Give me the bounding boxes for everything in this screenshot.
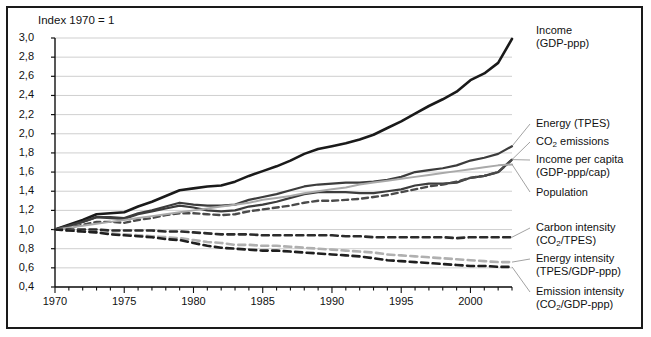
y-axis-tick-label: 3,0 [8,31,34,43]
legend-label-line1: Energy (TPES) [536,117,610,129]
y-axis-tick-label: 1,2 [8,203,34,215]
x-axis-tick-label: 1995 [378,295,424,307]
y-axis-tick-label: 2,2 [8,108,34,120]
y-axis-tick-label: 2,8 [8,50,34,62]
legend-label-line1: Energy intensity [536,252,614,264]
y-axis-tick-label: 0,4 [8,280,34,292]
legend-label-line2: (CO2/TPES) [536,234,596,246]
y-axis-tick-label: 1,6 [8,165,34,177]
legend-label-line1: Income [536,24,572,36]
legend-leader-line [512,142,530,160]
legend-label-2: CO2 emissions [536,135,609,152]
series-line-4 [55,164,512,229]
legend-label-1: Energy (TPES) [536,117,610,130]
y-axis-tick-label: 0,6 [8,261,34,273]
legend-leader-line [512,164,530,192]
x-axis-tick-label: 1985 [240,295,286,307]
series-line-7 [55,230,512,267]
legend-label-line1: CO2 emissions [536,135,609,147]
legend-label-line2: (TPES/GDP-ppp) [536,265,621,277]
legend-label-6: Energy intensity(TPES/GDP-ppp) [536,252,621,277]
legend-label-line1: Emission intensity [536,285,624,297]
legend-label-line2: (GDP-ppp/cap) [536,166,610,178]
x-axis-tick-label: 1970 [32,295,78,307]
x-axis-tick-label: 1980 [170,295,216,307]
chart-figure: Index 1970 = 1 0,40,60,81,01,21,41,61,82… [0,0,651,337]
x-axis-tick-label: 1975 [101,295,147,307]
legend-label-0: Income(GDP-ppp) [536,24,589,49]
legend-label-3: Income per capita(GDP-ppp/cap) [536,153,623,178]
y-axis-tick-label: 1,8 [8,146,34,158]
legend-label-line2: (GDP-ppp) [536,37,589,49]
y-axis-tick-label: 1,4 [8,184,34,196]
legend-leader-line [512,228,530,237]
y-axis-tick-label: 2,0 [8,127,34,139]
legend-leader-line [512,124,530,146]
y-axis-tick-label: 0,8 [8,242,34,254]
x-axis-tick-label: 1990 [309,295,355,307]
legend-label-5: Carbon intensity(CO2/TPES) [536,221,616,250]
y-axis-tick-label: 2,6 [8,69,34,81]
legend-leader-line [512,259,530,262]
legend-label-line1: Carbon intensity [536,221,616,233]
legend-leader-line [512,267,530,292]
y-axis-tick-label: 1,0 [8,223,34,235]
series-line-1 [55,146,512,229]
legend-label-7: Emission intensity(CO2/GDP-ppp) [536,285,624,314]
legend-label-line1: Population [536,186,588,198]
legend-label-line2: (CO2/GDP-ppp) [536,298,613,310]
legend-label-line1: Income per capita [536,153,623,165]
legend-label-4: Population [536,186,588,199]
y-axis-tick-label: 2,4 [8,88,34,100]
x-axis-tick-label: 2000 [447,295,493,307]
